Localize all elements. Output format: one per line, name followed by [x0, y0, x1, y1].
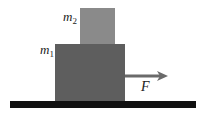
force-arrow	[0, 0, 202, 116]
ground-surface	[10, 101, 196, 108]
force-label: F	[141, 80, 150, 94]
